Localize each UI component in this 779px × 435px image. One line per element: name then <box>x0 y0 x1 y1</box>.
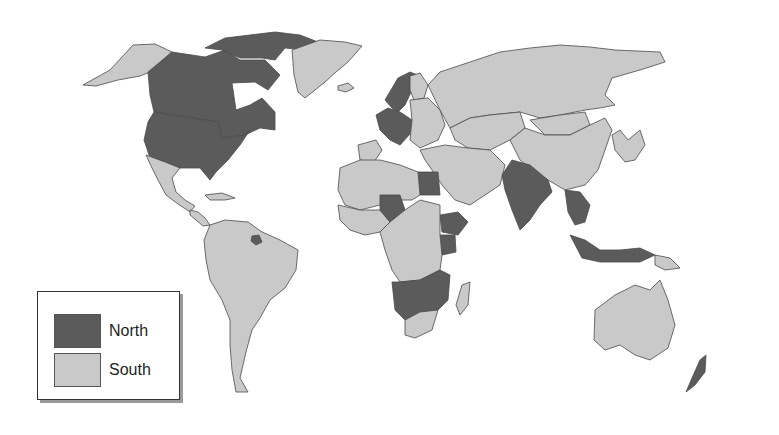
region-kenya: Kenya <box>440 235 456 255</box>
region-south-america: South America <box>204 220 298 392</box>
legend: North South <box>37 291 180 400</box>
region-new-zealand: New Zealand <box>686 355 706 392</box>
region-central-america: Central America <box>190 210 210 226</box>
region-finland: Finland <box>410 73 428 100</box>
region-korea-japan: Korea & Japan <box>612 130 645 162</box>
region-caribbean: Caribbean <box>205 193 235 200</box>
legend-item-north: North <box>54 314 148 348</box>
region-ethiopia: Ethiopia <box>440 212 468 235</box>
region-russia: Russia <box>428 45 665 128</box>
legend-swatch-south <box>54 353 101 387</box>
region-egypt: Egypt <box>418 172 440 195</box>
region-iberia: Iberia <box>358 140 382 162</box>
region-australia: Australia <box>594 280 675 360</box>
region-north-africa: North Africa <box>338 160 420 210</box>
legend-swatch-north <box>54 314 101 348</box>
region-indonesia: Indonesia & Malaysia <box>570 235 655 262</box>
region-southeast-asia: Southeast Asia <box>565 190 590 225</box>
legend-label-north: North <box>109 322 148 340</box>
region-madagascar: Madagascar <box>456 282 470 315</box>
region-papua-new-guinea: Papua New Guinea <box>655 255 680 270</box>
region-iceland: Iceland <box>338 83 354 92</box>
region-western-europe: Western Europe <box>376 108 412 145</box>
legend-label-south: South <box>109 361 151 379</box>
legend-item-south: South <box>54 353 151 387</box>
